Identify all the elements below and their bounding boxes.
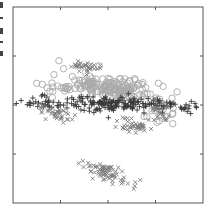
data-points — [14, 58, 199, 191]
scatter-plot — [0, 0, 214, 214]
series-crosses — [36, 59, 170, 191]
